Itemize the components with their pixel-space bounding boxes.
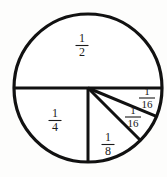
slice-label-one-quarter-denominator: 4 (52, 120, 58, 134)
slice-label-one-quarter-numerator: 1 (52, 106, 58, 120)
slice-label-one-sixteenth-upper-numerator: 1 (144, 85, 150, 97)
slice-label-one-sixteenth-lower-denominator: 16 (128, 117, 140, 129)
slice-label-one-eighth-denominator: 8 (105, 144, 111, 158)
slice-label-one-half-denominator: 2 (79, 45, 85, 59)
slice-label-one-sixteenth-upper-denominator: 16 (142, 98, 154, 110)
slice-label-one-eighth-numerator: 1 (105, 130, 111, 144)
fraction-circle-diagram: 1 2 1 4 1 8 1 16 1 16 (0, 0, 167, 177)
slice-label-one-sixteenth-lower-numerator: 1 (130, 104, 136, 116)
fraction-circle-svg: 1 2 1 4 1 8 1 16 1 16 (0, 0, 167, 177)
slice-label-one-half-numerator: 1 (79, 31, 85, 45)
